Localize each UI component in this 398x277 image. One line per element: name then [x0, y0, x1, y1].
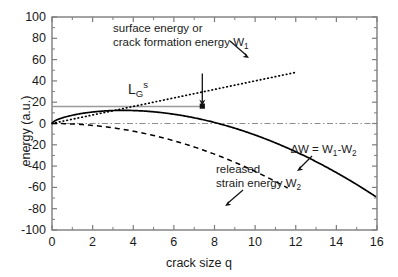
annotation-w1: surface energy or crack formation energy… [113, 22, 249, 52]
annotation-delta-w-sub2: 2 [352, 149, 357, 158]
x-axis-title: crack size q [0, 256, 398, 270]
x-tick-label: 16 [370, 236, 384, 249]
chart-figure: 100 80 60 40 20 0 -20 -40 -60 -80 -100 0… [0, 0, 398, 277]
y-tick-label: 80 [10, 32, 46, 45]
arrow-w1-head [243, 53, 249, 58]
annotation-w1-line2-text: crack formation energy W [113, 36, 244, 48]
annotation-delta-w-pre: ∆W = W [291, 143, 333, 155]
annotation-w2-line1: released [216, 163, 301, 177]
annotation-w1-line1: surface energy or [113, 22, 249, 36]
x-tick-label: 8 [211, 236, 218, 249]
x-tick-label: 0 [49, 236, 56, 249]
x-tick-label: 6 [170, 236, 177, 249]
y-tick-label: -80 [10, 202, 46, 215]
annotation-w2-subscript: 2 [297, 183, 302, 192]
annotation-w2: released strain energy W2 [216, 163, 301, 193]
annotation-delta-w-mid: -W [337, 143, 352, 155]
annotation-delta-w: ∆W = W1-W2 [291, 143, 357, 159]
y-tick-label: 100 [10, 11, 46, 24]
annotation-w2-line2: strain energy W2 [216, 177, 301, 193]
annotation-lg-superscript: s [143, 79, 148, 90]
x-tick-label: 2 [89, 236, 96, 249]
x-tick-label: 10 [248, 236, 262, 249]
x-tick-label: 4 [130, 236, 137, 249]
x-tick-label: 14 [329, 236, 343, 249]
annotation-lg-s: LGs [128, 79, 148, 99]
annotation-lg-base: L [128, 81, 136, 97]
x-tick-label: 12 [289, 236, 303, 249]
annotation-w1-subscript: 1 [244, 42, 249, 51]
annotation-w1-line2: crack formation energy W1 [113, 36, 249, 52]
annotation-w2-line2-text: strain energy W [216, 177, 297, 189]
y-tick-label: -100 [10, 224, 46, 237]
curve-w1-surface-energy [52, 72, 296, 123]
annotation-lg-subscript: G [136, 88, 143, 99]
y-axis-title: energy (a.u.) [19, 61, 33, 201]
